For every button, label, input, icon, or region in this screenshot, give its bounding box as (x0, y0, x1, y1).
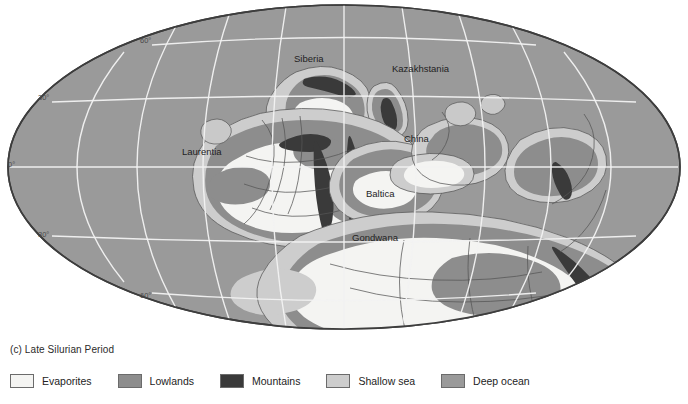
legend-label-shallow-sea: Shallow sea (358, 375, 415, 387)
legend-item-deep-ocean: Deep ocean (441, 374, 530, 388)
legend-item-mountains: Mountains (220, 374, 300, 388)
legend-label-deep-ocean: Deep ocean (473, 375, 530, 387)
legend-swatch-shallow-sea (326, 374, 350, 388)
region-label-china: China (404, 133, 430, 144)
region-label-siberia: Siberia (294, 53, 324, 64)
figure-caption: (c) Late Silurian Period (10, 344, 114, 355)
region-label-laurentia: Laurentia (182, 146, 222, 157)
lat-label-30s: 30° (38, 230, 49, 239)
map-legend: Evaporites Lowlands Mountains Shallow se… (10, 374, 556, 388)
region-label-kazakhstania: Kazakhstania (392, 63, 450, 74)
legend-label-evaporites: Evaporites (42, 375, 92, 387)
legend-swatch-deep-ocean (441, 374, 465, 388)
region-label-gondwana: Gondwana (352, 232, 399, 243)
legend-label-lowlands: Lowlands (150, 375, 194, 387)
map-canvas: 60° 30° 0° 30° 60° Siberia Kazakhstania … (0, 0, 688, 340)
legend-label-mountains: Mountains (252, 375, 300, 387)
region-label-baltica: Baltica (366, 188, 395, 199)
lat-label-60s: 60° (140, 291, 151, 300)
lat-label-0: 0° (8, 160, 15, 169)
legend-item-shallow-sea: Shallow sea (326, 374, 415, 388)
legend-item-lowlands: Lowlands (118, 374, 194, 388)
legend-item-evaporites: Evaporites (10, 374, 92, 388)
lat-label-30n: 30° (38, 93, 49, 102)
legend-swatch-mountains (220, 374, 244, 388)
lat-label-60n: 60° (140, 36, 151, 45)
paleogeographic-map: 60° 30° 0° 30° 60° Siberia Kazakhstania … (0, 0, 688, 340)
legend-swatch-lowlands (118, 374, 142, 388)
legend-swatch-evaporites (10, 374, 34, 388)
